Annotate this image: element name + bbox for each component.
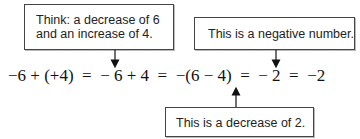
- arrows: [0, 0, 360, 139]
- arrow-down-icon: [112, 50, 119, 67]
- arrow-up-icon: [233, 88, 240, 107]
- arrow-down-icon: [273, 50, 280, 67]
